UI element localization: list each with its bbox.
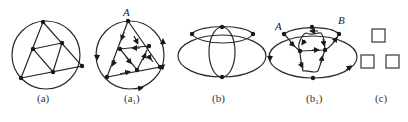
square-bottom-right — [386, 55, 399, 68]
panel-b1-label: (b1) — [306, 92, 323, 106]
figure-canvas: (a) A (a1) (b) — [0, 0, 408, 122]
square-bottom-left — [361, 55, 374, 68]
panel-a1-graph — [96, 19, 164, 89]
panel-b-label: (b) — [212, 92, 225, 105]
vertex-label-b1-B: B — [338, 14, 345, 26]
panel-b1-graph — [269, 25, 357, 80]
vertex-label-a1-A: A — [122, 6, 130, 18]
panel-a-label: (a) — [37, 92, 50, 105]
panel-c-label: (c) — [375, 92, 388, 105]
vertex-label-b1-A: A — [274, 20, 282, 32]
panel-b-graph — [178, 25, 266, 79]
panel-a1-label: (a1) — [124, 92, 140, 106]
square-top — [372, 29, 385, 42]
panel-a-graph — [12, 20, 84, 89]
panel-c-squares — [361, 29, 399, 68]
